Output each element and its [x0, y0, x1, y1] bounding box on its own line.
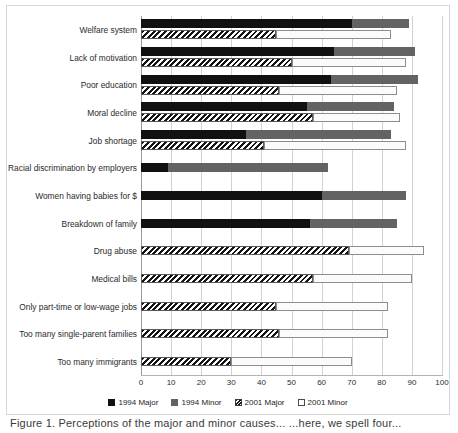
bar-segment-1994-major: [141, 163, 168, 172]
x-tick-label: 40: [257, 378, 266, 387]
x-tick-label: 80: [377, 378, 386, 387]
bar-segment-2001-minor: [231, 357, 351, 366]
bar-segment-1994-major: [141, 219, 310, 228]
category-label: Breakdown of family: [0, 219, 137, 229]
category-row: Drug abuse: [141, 238, 442, 266]
bar-segment-1994-minor: [352, 19, 409, 28]
bar-segment-2001-major: [141, 30, 276, 39]
category-row: Only part-time or low-wage jobs: [141, 293, 442, 321]
bar-segment-1994-minor: [322, 191, 406, 200]
legend-item[interactable]: 2001 Minor: [298, 398, 348, 407]
bar-segment-1994-major: [141, 102, 307, 111]
bar-segment-2001-minor: [279, 86, 396, 95]
x-tick-label: 10: [167, 378, 176, 387]
bar-segment-2001-minor: [313, 113, 400, 122]
x-tick-label: 20: [197, 378, 206, 387]
swatch-1994-minor-icon: [171, 399, 178, 406]
category-row: Too many single-parent families: [141, 321, 442, 349]
bar-segment-1994-major: [141, 19, 352, 28]
legend-label: 2001 Minor: [308, 398, 348, 407]
legend-label: 1994 Minor: [181, 398, 221, 407]
bar-segment-1994-major: [141, 47, 334, 56]
category-label: Too many immigrants: [0, 357, 137, 367]
chart-container: Welfare systemLack of motivationPoor edu…: [6, 5, 450, 415]
bar-segment-1994-major: [141, 191, 322, 200]
bar-segment-2001-major: [141, 113, 313, 122]
bar-segment-1994-major: [141, 130, 246, 139]
bar-segment-1994-minor: [168, 163, 328, 172]
legend-item[interactable]: 1994 Minor: [171, 398, 221, 407]
category-row: Too many immigrants: [141, 348, 442, 376]
legend-item[interactable]: 2001 Major: [235, 398, 285, 407]
category-label: Lack of motivation: [0, 53, 137, 63]
category-row: Medical bills: [141, 265, 442, 293]
category-label: Poor education: [0, 80, 137, 90]
x-tick-label: 70: [347, 378, 356, 387]
bar-segment-2001-major: [141, 357, 231, 366]
bar-segment-2001-minor: [292, 58, 406, 67]
bar-segment-2001-minor: [264, 141, 405, 150]
bar-segment-1994-minor: [331, 75, 418, 84]
x-axis: 0102030405060708090100: [141, 376, 442, 390]
category-row: Welfare system: [141, 16, 442, 44]
x-tick-label: 100: [435, 378, 448, 387]
x-tick-label: 60: [317, 378, 326, 387]
category-label: Only part-time or low-wage jobs: [0, 302, 137, 312]
category-label: Moral decline: [0, 108, 137, 118]
x-tick-label: 90: [407, 378, 416, 387]
bar-segment-2001-minor: [276, 30, 390, 39]
bar-segment-2001-major: [141, 141, 264, 150]
swatch-2001-major-icon: [235, 399, 242, 406]
x-tick-label: 50: [287, 378, 296, 387]
category-row: Job shortage: [141, 127, 442, 155]
bar-segment-1994-minor: [246, 130, 390, 139]
bar-segment-2001-minor: [279, 329, 387, 338]
category-row: Poor education: [141, 71, 442, 99]
category-row: Moral decline: [141, 99, 442, 127]
bar-segment-2001-minor: [349, 246, 424, 255]
legend-label: 2001 Major: [245, 398, 285, 407]
category-label: Welfare system: [0, 25, 137, 35]
bar-segment-1994-minor: [307, 102, 394, 111]
bar-rows: Welfare systemLack of motivationPoor edu…: [141, 16, 442, 376]
swatch-2001-minor-icon: [298, 399, 305, 406]
bar-segment-2001-minor: [276, 302, 387, 311]
gridline-100: [442, 16, 443, 376]
bar-segment-2001-major: [141, 302, 276, 311]
category-label: Racial discrimination by employers: [0, 163, 137, 173]
bar-segment-1994-major: [141, 75, 331, 84]
legend-label: 1994 Major: [118, 398, 158, 407]
bar-segment-2001-major: [141, 86, 279, 95]
category-label: Drug abuse: [0, 246, 137, 256]
x-tick-label: 0: [139, 378, 143, 387]
plot-area: Welfare systemLack of motivationPoor edu…: [141, 16, 442, 376]
bar-segment-2001-major: [141, 274, 313, 283]
chart-legend: 1994 Major1994 Minor2001 Major2001 Minor: [7, 398, 449, 407]
bar-segment-2001-major: [141, 58, 292, 67]
bar-segment-2001-minor: [313, 274, 412, 283]
swatch-1994-major-icon: [108, 399, 115, 406]
bar-segment-2001-major: [141, 246, 349, 255]
legend-item[interactable]: 1994 Major: [108, 398, 158, 407]
figure-caption: Figure 1. Perceptions of the major and m…: [10, 417, 458, 429]
bar-segment-2001-major: [141, 329, 279, 338]
category-row: Lack of motivation: [141, 44, 442, 72]
category-label: Medical bills: [0, 274, 137, 284]
category-label: Job shortage: [0, 136, 137, 146]
category-row: Women having babies for $: [141, 182, 442, 210]
bar-segment-1994-minor: [310, 219, 397, 228]
bar-segment-1994-minor: [334, 47, 415, 56]
category-row: Breakdown of family: [141, 210, 442, 238]
category-row: Racial discrimination by employers: [141, 154, 442, 182]
category-label: Women having babies for $: [0, 191, 137, 201]
category-label: Too many single-parent families: [0, 329, 137, 339]
x-tick-label: 30: [227, 378, 236, 387]
